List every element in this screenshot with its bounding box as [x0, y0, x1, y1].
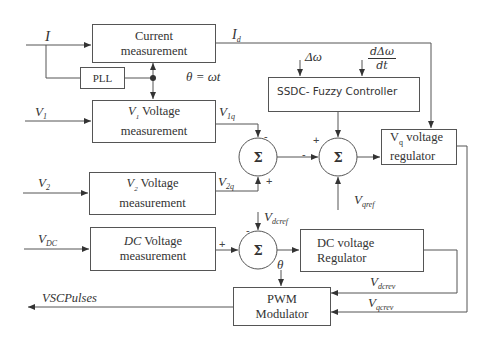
ssdc-label: SSDC- Fuzzy Controller	[277, 84, 397, 99]
sum1-bottom-sign: +	[266, 175, 272, 187]
signal-delta-omega: Δω	[305, 49, 322, 65]
pll-label: PLL	[93, 71, 113, 86]
v1-line1: Voltage	[142, 104, 180, 118]
signal-V2: V2	[38, 175, 50, 192]
dc-regulator-line2: Regulator	[317, 251, 366, 266]
pll-block: PLL	[80, 67, 125, 89]
dc-line2: measurement	[120, 249, 187, 264]
signal-V2q: V2q	[218, 174, 234, 191]
signal-Vqref: Vqref	[354, 192, 375, 209]
signal-V1q: V1q	[219, 104, 235, 121]
current-measurement-line2: measurement	[121, 44, 188, 59]
v1-prefix: V	[128, 104, 136, 118]
dc-voltage-measurement-block: DC Voltage measurement	[90, 227, 216, 271]
sum2-top-sign: +	[313, 134, 319, 146]
current-measurement-line1: Current	[135, 29, 173, 44]
pwm-line2: Modulator	[256, 307, 309, 322]
sum1-symbol: Σ	[253, 150, 262, 165]
v2-line2: measurement	[119, 196, 186, 211]
v1-prefix-sub: 1	[136, 112, 140, 120]
v2-prefix-sub: 2	[134, 184, 138, 192]
signal-VDC: VDC	[38, 231, 57, 248]
vq-prefix-sub: q	[399, 137, 403, 146]
signal-V1: V1	[35, 104, 47, 121]
current-measurement-block: Current measurement	[92, 24, 216, 63]
v1-line2: measurement	[121, 124, 188, 139]
sum3-symbol: Σ	[253, 243, 262, 258]
v2-voltage-measurement-block: V2 Voltage measurement	[89, 172, 216, 215]
sum3-left-sign: +	[219, 238, 225, 250]
signal-d-delta-omega-dt: dΔω dt	[368, 45, 396, 72]
dc-voltage-regulator-block: DC voltage Regulator	[300, 229, 424, 272]
dc-line1: Voltage	[144, 234, 182, 248]
v2-prefix: V	[126, 176, 134, 190]
signal-vsc-pulses: VSCPulses	[42, 291, 97, 306]
pwm-line1: PWM	[267, 292, 297, 307]
vq-prefix: V	[390, 130, 399, 144]
ssdc-fuzzy-controller-block: SSDC- Fuzzy Controller	[268, 77, 420, 112]
dc-prefix: DC	[124, 234, 141, 248]
signal-I: I	[45, 28, 50, 45]
signal-Vqcrev: Vqcrev	[368, 295, 393, 312]
junction-dot	[150, 75, 156, 81]
sum2-symbol: Σ	[333, 150, 342, 165]
vq-voltage-regulator-block: Vq voltage regulator	[381, 129, 457, 165]
pwm-modulator-block: PWM Modulator	[233, 287, 331, 326]
dc-regulator-line1: DC voltage	[317, 236, 374, 251]
v1-voltage-measurement-block: V1 Voltage measurement	[92, 100, 216, 143]
signal-theta-wt: θ = ωt	[186, 69, 220, 85]
sum1-top-sign: -	[264, 130, 268, 142]
signal-Vdcref: Vdcref	[264, 209, 288, 226]
signal-Id: Id	[232, 27, 241, 44]
sum3-top-sign: -	[246, 224, 250, 236]
signal-theta: θ	[277, 257, 283, 273]
signal-Vdcrev: Vdcrev	[370, 274, 395, 291]
sum2-left-sign: -	[302, 148, 306, 160]
vq-line2: regulator	[390, 149, 435, 164]
vq-line1: voltage	[406, 130, 443, 144]
v2-line1: Voltage	[141, 176, 179, 190]
